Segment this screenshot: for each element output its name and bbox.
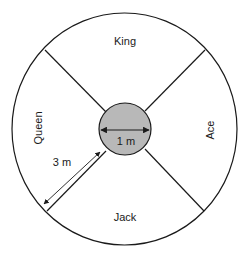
sector-label-king: King	[114, 35, 136, 47]
spinner-board-diagram: King Jack Queen Ace 1 m 3 m	[0, 0, 251, 261]
center-diameter-label: 1 m	[117, 135, 135, 147]
sector-label-jack: Jack	[114, 211, 137, 223]
center-circle	[99, 103, 151, 155]
sector-label-queen: Queen	[32, 111, 44, 144]
radius-label: 3 m	[53, 156, 71, 168]
sector-label-ace: Ace	[204, 121, 216, 140]
